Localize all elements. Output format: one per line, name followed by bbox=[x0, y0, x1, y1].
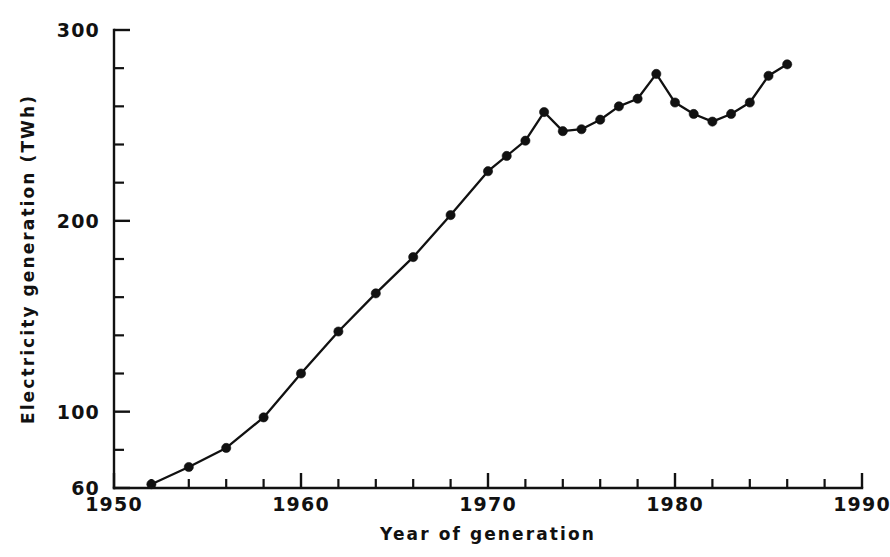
data-point bbox=[147, 480, 156, 489]
data-series-group bbox=[147, 60, 792, 489]
data-point bbox=[446, 211, 455, 220]
data-point bbox=[670, 98, 679, 107]
data-point bbox=[296, 369, 305, 378]
data-point bbox=[596, 115, 605, 124]
data-point bbox=[558, 127, 567, 136]
data-point bbox=[540, 107, 549, 116]
data-point bbox=[409, 252, 418, 261]
data-point bbox=[521, 136, 530, 145]
data-point bbox=[708, 117, 717, 126]
data-point bbox=[371, 289, 380, 298]
data-point bbox=[483, 167, 492, 176]
x-tick-label: 1970 bbox=[459, 493, 517, 515]
x-tick-label: 1980 bbox=[646, 493, 704, 515]
line-chart: 30020010060 19501960197019801990 Year of… bbox=[0, 0, 890, 557]
y-tick-label: 300 bbox=[57, 19, 100, 41]
data-point bbox=[689, 109, 698, 118]
data-point bbox=[652, 69, 661, 78]
x-tick-label: 1960 bbox=[272, 493, 330, 515]
data-point bbox=[577, 125, 586, 134]
data-point bbox=[764, 71, 773, 80]
data-point bbox=[259, 413, 268, 422]
data-point bbox=[614, 102, 623, 111]
y-axis-minor-ticks bbox=[114, 68, 124, 450]
y-tick-label: 200 bbox=[57, 210, 100, 232]
data-point bbox=[727, 109, 736, 118]
series-line bbox=[151, 64, 787, 484]
data-point bbox=[184, 462, 193, 471]
chart-figure: 30020010060 19501960197019801990 Year of… bbox=[0, 0, 890, 557]
y-axis-title: Electricity generation (TWh) bbox=[18, 94, 38, 424]
data-point bbox=[334, 327, 343, 336]
x-tick-label: 1950 bbox=[85, 493, 143, 515]
data-point bbox=[222, 443, 231, 452]
data-point bbox=[502, 151, 511, 160]
x-tick-label: 1990 bbox=[833, 493, 890, 515]
data-point bbox=[745, 98, 754, 107]
x-axis-tick-labels: 19501960197019801990 bbox=[85, 493, 890, 515]
y-axis-tick-labels: 30020010060 bbox=[57, 19, 100, 499]
y-tick-label: 100 bbox=[57, 401, 100, 423]
data-point bbox=[633, 94, 642, 103]
x-axis-title: Year of generation bbox=[379, 524, 596, 544]
data-point bbox=[783, 60, 792, 69]
